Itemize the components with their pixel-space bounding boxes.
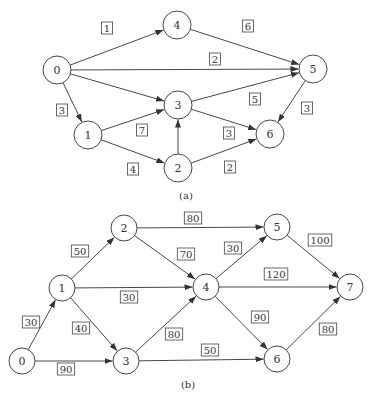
edge-0-4 (70, 30, 163, 65)
weight-text: 90 (60, 364, 73, 375)
edge-weight-label: 80 (319, 323, 336, 335)
edge-weight-label: 6 (242, 20, 253, 32)
edge-weight-label: 7 (136, 124, 147, 136)
node-label: 2 (121, 222, 128, 235)
edge-weight-label: 1 (101, 22, 112, 34)
node-label: 6 (267, 128, 274, 141)
edge-weight-label: 3 (56, 104, 67, 116)
weight-text: 90 (254, 312, 267, 323)
edge-2-5 (137, 227, 264, 228)
edge-weight-label: 30 (120, 291, 137, 303)
node-label: 0 (54, 64, 61, 77)
diagram-caption: (a) (179, 190, 193, 201)
node-label: 3 (123, 355, 130, 368)
edge-weight-label: 50 (71, 245, 88, 257)
weight-text: 3 (304, 103, 310, 114)
weight-text: 3 (226, 128, 232, 139)
edge-weight-label: 80 (184, 212, 201, 224)
node-label: 5 (310, 63, 317, 76)
weight-text: 100 (310, 235, 329, 246)
edge-1-4 (75, 287, 193, 288)
node-1: 1 (49, 275, 75, 301)
edge-weight-label: 70 (177, 248, 194, 260)
weight-text: 1 (104, 23, 110, 34)
edge-3-4 (136, 296, 197, 352)
node-3: 3 (164, 91, 192, 119)
node-7: 7 (337, 274, 363, 300)
node-label: 1 (59, 282, 66, 295)
weight-text: 120 (266, 269, 285, 280)
weight-text: 2 (227, 162, 233, 173)
edge-weight-label: 100 (308, 234, 332, 246)
edge-weight-label: 90 (57, 363, 74, 375)
weight-text: 40 (75, 323, 88, 334)
edge-0-5 (71, 69, 299, 70)
weight-text: 5 (252, 94, 258, 105)
node-label: 3 (175, 99, 182, 112)
edge-weight-label: 2 (209, 53, 220, 65)
edge-3-5 (192, 73, 299, 102)
node-3: 3 (113, 348, 139, 374)
node-4: 4 (193, 274, 219, 300)
edge-weight-label: 120 (264, 268, 288, 280)
node-2: 2 (111, 215, 137, 241)
node-label: 1 (85, 129, 92, 142)
node-6: 6 (256, 120, 284, 148)
edge-5-6 (278, 81, 305, 122)
weight-text: 70 (180, 249, 193, 260)
node-label: 4 (203, 281, 210, 294)
edge-weight-label: 90 (251, 311, 268, 323)
node-1: 1 (74, 121, 102, 149)
node-label: 5 (274, 221, 281, 234)
weight-text: 30 (123, 292, 136, 303)
node-label: 6 (274, 353, 281, 366)
diagram-caption: (b) (181, 379, 195, 390)
weight-text: 30 (227, 243, 240, 254)
edge-weight-label: 30 (22, 316, 39, 328)
node-label: 0 (19, 355, 26, 368)
node-6: 6 (264, 346, 290, 372)
node-5: 5 (264, 214, 290, 240)
graph-diagrams: 16237453320123456(a) 3090503040807080503… (0, 0, 374, 400)
node-0: 0 (43, 56, 71, 84)
edge-weight-label: 4 (127, 163, 138, 175)
edge-weight-label: 5 (249, 93, 260, 105)
node-label: 2 (175, 162, 182, 175)
edge-weight-label: 3 (223, 127, 234, 139)
diagram-a: 16237453320123456(a) (43, 11, 327, 201)
edge-weight-label: 2 (224, 161, 235, 173)
weight-text: 80 (187, 213, 200, 224)
node-label: 7 (347, 281, 354, 294)
edge-weight-label: 30 (224, 242, 241, 254)
node-4: 4 (163, 11, 191, 39)
edge-weight-label: 50 (201, 344, 218, 356)
weight-text: 2 (212, 54, 218, 65)
edge-weight-label: 80 (165, 328, 182, 340)
weight-text: 80 (168, 329, 181, 340)
edge-1-2 (71, 237, 114, 279)
node-label: 4 (174, 19, 181, 32)
weight-text: 50 (74, 246, 87, 257)
node-0: 0 (9, 348, 35, 374)
weight-text: 6 (245, 21, 251, 32)
edge-1-2 (101, 140, 164, 163)
node-5: 5 (299, 55, 327, 83)
weight-text: 7 (139, 125, 145, 136)
edge-4-5 (190, 29, 299, 64)
edge-0-3 (70, 74, 164, 101)
weight-text: 50 (204, 345, 217, 356)
weight-text: 30 (25, 317, 38, 328)
weight-text: 80 (322, 324, 335, 335)
node-2: 2 (164, 154, 192, 182)
weight-text: 4 (130, 164, 136, 175)
edge-3-6 (191, 109, 256, 129)
weight-text: 3 (59, 105, 65, 116)
edge-2-6 (191, 139, 256, 163)
edge-3-6 (139, 359, 264, 361)
edge-weight-label: 40 (72, 322, 89, 334)
edge-weight-label: 3 (301, 102, 312, 114)
diagram-b: 30905030408070805030120901008001234567(b… (9, 212, 363, 390)
edge-1-3 (101, 110, 164, 131)
